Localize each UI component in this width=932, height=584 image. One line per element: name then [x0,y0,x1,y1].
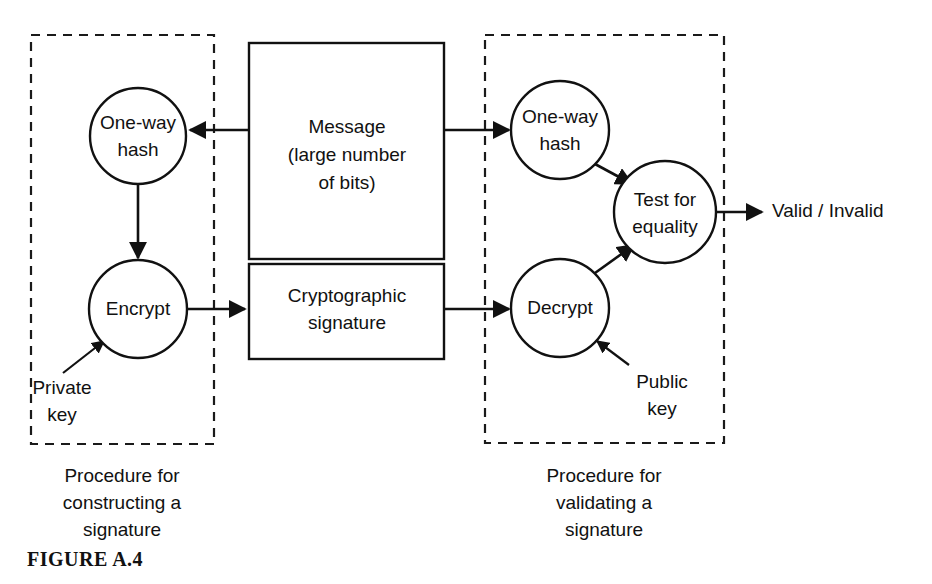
output-valid-invalid-label: Valid / Invalid [772,200,884,221]
node-one-way-hash-left [90,88,186,184]
digital-signature-diagram: One-way hash Encrypt One-way hash Decryp… [0,0,932,584]
node-test-for-equality-line1: Test for [634,189,697,210]
message-box-line3: of bits) [318,172,375,193]
arrow-decrypt-to-test [595,245,634,273]
node-encrypt-label: Encrypt [106,298,171,319]
caption-construct-line1: Procedure for [64,465,180,486]
signature-box-line2: signature [308,312,386,333]
arrow-private-key-to-encrypt [63,341,104,373]
figure-container: One-way hash Encrypt One-way hash Decryp… [0,0,932,584]
node-decrypt-label: Decrypt [527,297,593,318]
caption-validate-line2: validating a [556,492,653,513]
public-key-label-line1: Public [636,371,688,392]
private-key-label-line2: key [47,404,77,425]
node-test-for-equality [614,161,716,263]
node-test-for-equality-line2: equality [632,216,698,237]
node-one-way-hash-left-line2: hash [117,139,158,160]
caption-construct-line2: constructing a [63,492,182,513]
node-one-way-hash-right-line2: hash [539,133,580,154]
signature-box-line1: Cryptographic [288,285,406,306]
node-one-way-hash-right [511,81,609,179]
private-key-label-line1: Private [32,377,91,398]
message-box-line1: Message [308,116,385,137]
figure-number-caption: FIGURE A.4 [27,548,143,571]
node-one-way-hash-left-line1: One-way [100,112,177,133]
node-one-way-hash-right-line1: One-way [522,106,599,127]
caption-construct-line3: signature [83,519,161,540]
public-key-label-line2: key [647,398,677,419]
arrow-public-key-to-decrypt [597,341,629,365]
caption-validate-line3: signature [565,519,643,540]
message-box-line2: (large number [288,144,407,165]
caption-validate-line1: Procedure for [546,465,662,486]
